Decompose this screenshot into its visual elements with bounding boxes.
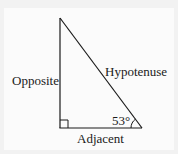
opposite-label: Opposite — [12, 74, 59, 87]
adjacent-label: Adjacent — [77, 132, 124, 145]
hypotenuse-label: Hypotenuse — [105, 65, 167, 78]
right-angle-marker-icon — [60, 120, 68, 128]
angle-label: 53° — [112, 114, 130, 127]
angle-arc-icon — [131, 119, 135, 128]
